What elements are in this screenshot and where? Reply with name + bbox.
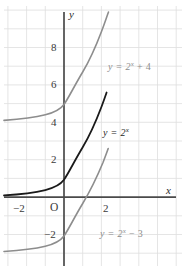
- curve-label-exp-minus-3-base: y = 2: [100, 228, 123, 239]
- graph-figure: y x O −2 2 8 6 4 2 −2 y = 2x + 4 y = 2x …: [0, 0, 184, 271]
- x-tick-label-neg2: −2: [13, 203, 25, 214]
- curve-label-exp-exponent: x: [126, 126, 129, 134]
- curve-label-exp-plus-4-tail: + 4: [134, 61, 151, 72]
- grid-lines: [4, 6, 182, 266]
- y-tick-label-2: 2: [51, 154, 57, 165]
- origin-label: O: [50, 202, 58, 214]
- curve-exp: [4, 93, 107, 196]
- curve-label-exp-plus-4-base: y = 2: [108, 61, 131, 72]
- x-axis-label: x: [166, 185, 171, 196]
- curve-label-exp-minus-3-tail: − 3: [126, 228, 143, 239]
- x-tick-label-2: 2: [103, 203, 109, 214]
- curve-label-exp-minus-3: y = 2x − 3: [100, 229, 143, 239]
- y-tick-label-neg2: −2: [44, 229, 56, 240]
- curve-label-exp-base: y = 2: [103, 127, 126, 138]
- coordinate-plane: [0, 0, 184, 271]
- y-tick-label-6: 6: [51, 79, 57, 90]
- axis-lines: [4, 12, 176, 266]
- y-axis-label: y: [69, 9, 74, 20]
- y-tick-label-4: 4: [51, 117, 57, 128]
- curve-label-exp-plus-4: y = 2x + 4: [108, 62, 151, 72]
- y-tick-label-8: 8: [51, 42, 57, 53]
- curve-label-exp: y = 2x: [103, 128, 129, 138]
